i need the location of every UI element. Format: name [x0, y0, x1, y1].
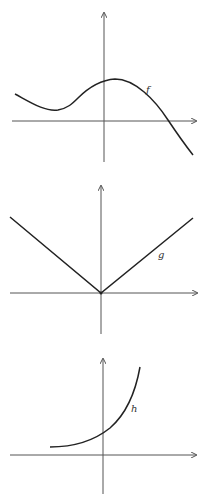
graph-h: h — [10, 359, 196, 494]
graph-f: f — [12, 13, 196, 162]
curve-h — [50, 367, 140, 447]
label-f: f — [145, 84, 152, 95]
label-h: h — [131, 403, 137, 414]
label-g: g — [158, 249, 164, 260]
graph-g: g — [10, 186, 197, 334]
function-graphs: f g h — [0, 0, 210, 499]
vertex-point — [100, 292, 103, 295]
